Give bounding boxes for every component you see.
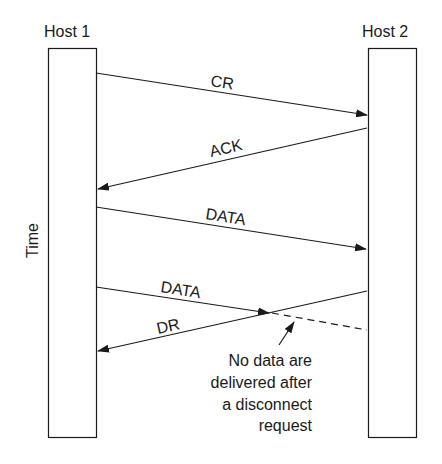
data-arrow-2-dropped (272, 313, 367, 330)
annotation-line-1: No data are (228, 352, 312, 369)
host2-label: Host 2 (362, 23, 408, 40)
ack-label: ACK (208, 136, 244, 160)
host1-timeline (49, 49, 97, 438)
annotation-line-4: request (259, 417, 313, 434)
host1-label: Host 1 (44, 23, 90, 40)
annotation-line-3: a disconnect (222, 396, 312, 413)
disconnect-diagram: Host 1 Host 2 Time CR ACK DATA DATA DR N… (0, 0, 442, 464)
dr-arrow (98, 291, 367, 351)
time-axis-label: Time (24, 223, 41, 258)
annotation-line-2: delivered after (211, 374, 313, 391)
annotation-pointer (279, 322, 294, 345)
cr-label: CR (210, 72, 235, 92)
host2-timeline (369, 49, 417, 438)
